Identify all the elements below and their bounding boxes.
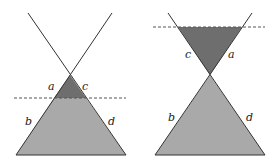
- right-label-a: a: [228, 48, 235, 61]
- left-label-c: c: [82, 80, 88, 93]
- left-figure: a c b d: [14, 13, 126, 155]
- left-label-a: a: [48, 80, 55, 93]
- right-label-c: c: [185, 48, 191, 61]
- left-label-b: b: [25, 115, 32, 128]
- right-label-d: d: [246, 111, 253, 124]
- diagram-canvas: a c b d c a b d: [0, 0, 278, 164]
- right-label-b: b: [168, 111, 175, 124]
- right-figure: c a b d: [153, 13, 265, 155]
- left-label-d: d: [108, 115, 115, 128]
